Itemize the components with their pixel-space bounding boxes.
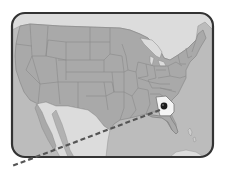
location-marker-icon [161, 103, 168, 110]
map-area [12, 13, 213, 157]
marker-highlight [162, 104, 164, 106]
us-map-illustration [0, 0, 226, 169]
